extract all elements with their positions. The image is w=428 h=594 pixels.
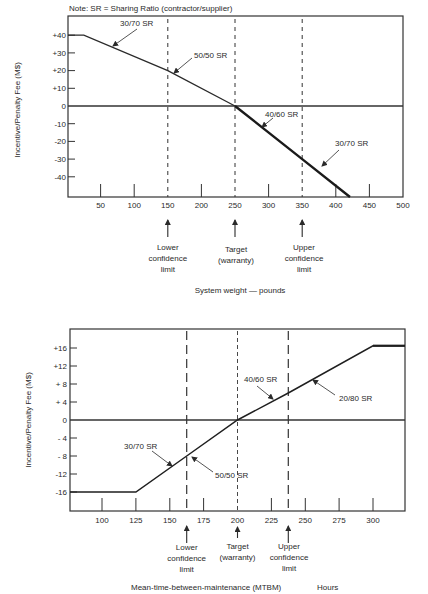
chart1-label-40-60-sr: 40/60 SR <box>265 110 299 119</box>
svg-text:0: 0 <box>62 102 67 111</box>
svg-text:confidence: confidence <box>285 254 324 263</box>
svg-text:+10: +10 <box>52 84 66 93</box>
svg-text:+40: +40 <box>52 31 66 40</box>
chart2-x-axis-unit: Hours <box>317 583 338 592</box>
svg-text:400: 400 <box>329 201 343 210</box>
chart1-x-axis-label: System weight — pounds <box>195 286 286 295</box>
svg-text:Lower: Lower <box>176 543 198 552</box>
chart1-curve-lower <box>235 106 350 197</box>
chart2-reference-lines <box>187 331 289 511</box>
svg-text:150: 150 <box>163 516 177 525</box>
chart2-label-50-50-sr: 50/50 SR <box>215 471 249 480</box>
svg-text:Target: Target <box>226 542 249 551</box>
svg-text:limit: limit <box>297 265 312 274</box>
svg-text:-40: -40 <box>54 173 66 182</box>
svg-text:175: 175 <box>197 516 211 525</box>
note-text: Note: SR = Sharing Ratio (contractor/sup… <box>69 4 233 13</box>
chart1-limit-labels: Lower confidence limit Target (warranty)… <box>148 243 323 274</box>
chart2-y-axis-label: Incentive/Penalty Fee (M$) <box>24 372 33 468</box>
svg-text:limit: limit <box>282 564 297 573</box>
svg-text:225: 225 <box>265 516 279 525</box>
chart1-y-tick-labels: +40 +30 +20 +10 0 -10 -20 -30 -40 <box>52 31 66 182</box>
chart1-limit-arrows <box>168 220 302 237</box>
svg-text:500: 500 <box>396 201 410 210</box>
svg-text:Upper: Upper <box>293 243 315 252</box>
svg-text:confidence: confidence <box>270 553 309 562</box>
chart2-y-tick-labels: +16 +12 + 8 + 4 0 - 4 - 8 -12 -16 <box>53 344 67 497</box>
chart1-arrow-2 <box>174 58 192 73</box>
svg-text:+16: +16 <box>53 344 67 353</box>
chart2-arrow-3 <box>257 386 273 399</box>
chart1-reference-lines <box>168 19 302 197</box>
svg-text:125: 125 <box>129 516 143 525</box>
chart2-arrow-4 <box>313 380 335 395</box>
svg-text:+20: +20 <box>52 66 66 75</box>
chart2-limit-labels: Lower confidence limit Target (warranty)… <box>167 542 309 574</box>
svg-text:(warranty): (warranty) <box>219 553 255 562</box>
svg-text:Lower: Lower <box>157 243 179 252</box>
chart2-label-20-80-sr: 20/80 SR <box>339 394 373 403</box>
chart1-curve-upper <box>68 35 235 106</box>
chart2-arrow-2 <box>192 457 213 472</box>
svg-text:-16: -16 <box>55 488 67 497</box>
svg-text:250: 250 <box>228 201 242 210</box>
svg-text:+12: +12 <box>53 362 67 371</box>
svg-text:Upper: Upper <box>278 542 300 551</box>
chart1-label-30-70-sr: 30/70 SR <box>120 19 154 28</box>
svg-text:300: 300 <box>366 516 380 525</box>
chart2-label-30-70-sr: 30/70 SR <box>124 442 158 451</box>
svg-text:-30: -30 <box>54 155 66 164</box>
svg-text:350: 350 <box>296 201 310 210</box>
svg-text:limit: limit <box>180 565 195 574</box>
chart2-label-40-60-sr: 40/60 SR <box>244 375 278 384</box>
svg-text:- 8: - 8 <box>58 452 68 461</box>
chart1-label-50-50-sr: 50/50 SR <box>194 51 228 60</box>
svg-text:450: 450 <box>363 201 377 210</box>
chart2-arrow-1 <box>152 451 172 466</box>
chart1-y-axis-label: Incentive/Penalty Fee (M$) <box>13 62 22 158</box>
chart1-arrow-4 <box>322 150 339 166</box>
svg-text:(warranty): (warranty) <box>218 256 254 265</box>
svg-text:confidence: confidence <box>148 254 187 263</box>
svg-text:+30: +30 <box>52 49 66 58</box>
svg-text:+ 8: + 8 <box>56 380 68 389</box>
svg-text:200: 200 <box>231 516 245 525</box>
chart1-label-30-70-sr-2: 30/70 SR <box>335 139 369 148</box>
svg-text:-20: -20 <box>54 137 66 146</box>
chart1-arrow-3 <box>262 118 273 127</box>
svg-text:50: 50 <box>96 201 105 210</box>
chart2-x-axis-label: Mean-time-between-maintenance (MTBM) <box>131 583 282 592</box>
svg-text:+ 4: + 4 <box>56 398 68 407</box>
svg-text:confidence: confidence <box>167 554 206 563</box>
svg-text:limit: limit <box>161 265 176 274</box>
chart-2: Incentive/Penalty Fee (M$) +16 +12 + 8 +… <box>24 329 405 592</box>
svg-text:-12: -12 <box>55 470 67 479</box>
svg-text:275: 275 <box>332 516 346 525</box>
chart1-arrow-1 <box>113 29 137 46</box>
chart-1: Incentive/Penalty Fee (M$) +40 +30 +20 +… <box>13 16 410 295</box>
chart2-limit-arrows <box>187 526 289 543</box>
svg-text:100: 100 <box>95 516 109 525</box>
svg-text:100: 100 <box>128 201 142 210</box>
svg-text:0: 0 <box>63 416 68 425</box>
svg-text:Target: Target <box>225 245 248 254</box>
svg-text:150: 150 <box>161 201 175 210</box>
svg-text:-10: -10 <box>54 120 66 129</box>
svg-text:300: 300 <box>262 201 276 210</box>
chart2-x-tick-labels: 100 125 150 175 200 225 250 275 300 <box>95 516 380 525</box>
svg-text:- 4: - 4 <box>58 434 68 443</box>
chart1-x-tick-labels: 50 100 150 200 250 300 350 400 450 500 <box>96 201 410 210</box>
figure: Note: SR = Sharing Ratio (contractor/sup… <box>0 0 428 594</box>
svg-text:200: 200 <box>195 201 209 210</box>
svg-text:250: 250 <box>299 516 313 525</box>
